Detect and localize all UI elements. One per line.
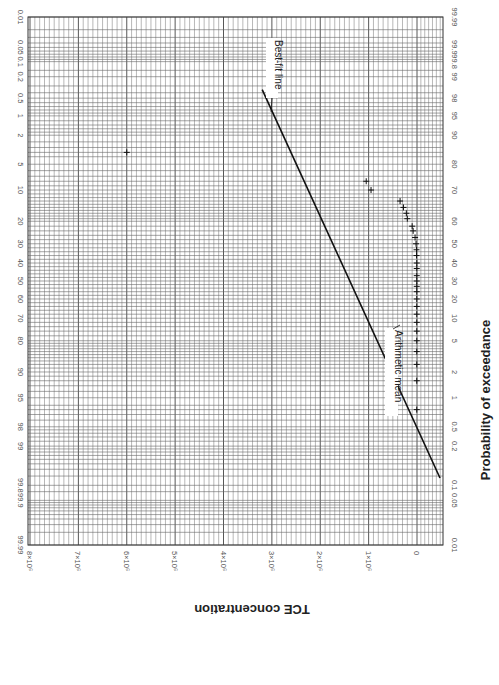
- probability-tick-label: 0.01: [16, 10, 25, 25]
- probability-tick-label-right: 0.5: [450, 422, 459, 432]
- probability-tick-label: 0.1: [16, 56, 25, 66]
- arithmetic-mean-label: Arithmetic mean: [393, 330, 404, 402]
- data-point-plus-marker: [414, 289, 420, 295]
- data-point-plus-marker: [414, 303, 420, 309]
- probability-tick-label-right: 95: [450, 112, 459, 120]
- probability-tick-label-right: 50: [450, 240, 459, 248]
- probability-tick-label: 20: [16, 217, 25, 225]
- data-point-plus-marker: [414, 328, 420, 334]
- data-point-plus-marker: [397, 198, 403, 204]
- data-point-plus-marker: [414, 349, 420, 355]
- data-point-plus-marker: [414, 361, 420, 367]
- probability-tick-label: 60: [16, 295, 25, 303]
- data-point-plus-marker: [400, 204, 406, 210]
- probability-tick-label-right: 0.2: [450, 441, 459, 451]
- probability-tick-label: 1: [16, 114, 25, 118]
- data-point-plus-marker: [404, 216, 410, 222]
- probability-tick-label-right: 40: [450, 259, 459, 267]
- probability-tick-label-right: 30: [450, 277, 459, 285]
- probability-tick-label-right: 5: [450, 339, 459, 343]
- data-point-plus-marker: [409, 223, 415, 229]
- data-point-plus-marker: [414, 319, 420, 325]
- probability-ticks-left: 0.010.050.10.20.512510203040506070809095…: [16, 10, 25, 555]
- probability-tick-label: 0.05: [16, 40, 25, 55]
- probability-tick-label-right: 20: [450, 295, 459, 303]
- data-point-plus-marker: [413, 241, 419, 247]
- probability-tick-label-right: 70: [450, 186, 459, 194]
- data-point-plus-marker: [403, 210, 409, 216]
- probability-tick-label-right: 80: [450, 160, 459, 168]
- data-point-plus-marker: [414, 253, 420, 259]
- probability-tick-label: 99.8: [16, 478, 25, 493]
- x-axis-title: Probability of exceedance: [478, 320, 493, 480]
- data-point-plus-marker: [414, 338, 420, 344]
- data-point-plus-marker: [414, 378, 420, 384]
- probability-tick-label-right: 0.01: [450, 538, 459, 553]
- data-point-plus-marker: [414, 278, 420, 284]
- concentration-tick-label: 2×10⁶: [315, 551, 324, 571]
- data-point-plus-marker: [414, 311, 420, 317]
- probability-tick-label: 40: [16, 259, 25, 267]
- best-fit-line: [262, 90, 440, 478]
- concentration-tick-label: 1×10⁶: [364, 551, 373, 571]
- probability-tick-label: 80: [16, 337, 25, 345]
- concentration-ticks: 01×10⁶2×10⁶3×10⁶4×10⁶5×10⁶6×10⁶7×10⁶8×10…: [25, 551, 421, 571]
- probability-tick-label-right: 2: [450, 370, 459, 374]
- probability-tick-label-right: 99.99: [450, 8, 459, 27]
- data-point-plus-marker: [124, 149, 130, 155]
- probability-tick-label-right: 99: [450, 73, 459, 81]
- concentration-tick-label: 8×10⁶: [25, 551, 34, 571]
- grid-horizontal-lines: [28, 17, 443, 545]
- probability-tick-label: 10: [16, 186, 25, 194]
- probability-tick-label-right: 1: [450, 396, 459, 400]
- probability-tick-label-right: 98: [450, 94, 459, 102]
- concentration-tick-label: 4×10⁶: [219, 551, 228, 571]
- concentration-tick-label: 6×10⁶: [122, 551, 131, 571]
- probability-tick-label: 2: [16, 133, 25, 137]
- probability-tick-label: 5: [16, 162, 25, 166]
- probability-tick-label-right: 99.8: [450, 54, 459, 69]
- probability-tick-label: 99.99: [16, 536, 25, 555]
- probability-tick-label: 0.2: [16, 71, 25, 81]
- data-point-plus-marker: [414, 296, 420, 302]
- probability-tick-label-right: 0.05: [450, 493, 459, 508]
- probability-tick-label-right: 10: [450, 314, 459, 322]
- data-point-plus-marker: [414, 283, 420, 289]
- probability-tick-label: 30: [16, 240, 25, 248]
- probability-tick-label-right: 60: [450, 217, 459, 225]
- data-point-plus-marker: [414, 273, 420, 279]
- concentration-tick-label: 3×10⁶: [267, 551, 276, 571]
- probability-tick-label: 90: [16, 368, 25, 376]
- y-axis-title: TCE concentration: [194, 602, 310, 617]
- data-point-plus-marker: [410, 228, 416, 234]
- probability-tick-label-right: 90: [450, 131, 459, 139]
- concentration-tick-label: 0: [412, 551, 421, 555]
- concentration-tick-label: 5×10⁶: [170, 551, 179, 571]
- probability-tick-label: 95: [16, 394, 25, 402]
- probability-plot: 0.010.050.10.20.512510203040506070809095…: [0, 0, 499, 685]
- probability-tick-label-right: 0.1: [450, 480, 459, 490]
- probability-tick-label-right: 99.9: [450, 40, 459, 55]
- best-fit-line-label: Best-fit line: [273, 40, 284, 90]
- probability-tick-label: 50: [16, 277, 25, 285]
- data-point-plus-marker: [414, 407, 420, 413]
- probability-tick-label: 99.9: [16, 493, 25, 508]
- probability-ticks-right: 99.9999.999.8999895908070605040302010521…: [450, 8, 459, 553]
- data-point-plus-marker: [414, 260, 420, 266]
- probability-tick-label: 98: [16, 423, 25, 431]
- probability-tick-label: 70: [16, 314, 25, 322]
- probability-tick-label: 99: [16, 442, 25, 450]
- concentration-tick-label: 7×10⁶: [73, 551, 82, 571]
- probability-tick-label: 0.5: [16, 93, 25, 103]
